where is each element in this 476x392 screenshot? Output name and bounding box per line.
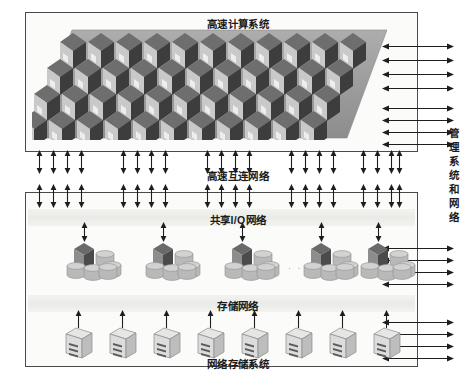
- interconnect-link: [302, 184, 309, 208]
- mgmt-link-compute-6: [382, 116, 454, 125]
- interconnect-link: [302, 150, 309, 174]
- storage-uplink: [251, 310, 258, 328]
- interconnect-link: [120, 150, 127, 174]
- interconnect-link: [360, 150, 367, 174]
- network-storage-server: [150, 326, 184, 360]
- interconnect-link: [288, 184, 295, 208]
- network-storage-server: [238, 326, 272, 360]
- interconnect-link: [246, 150, 253, 174]
- interconnect-link: [396, 184, 403, 208]
- storage-uplink: [163, 310, 170, 328]
- diagram-canvas: 高速计算系统 高速互连网络 共享I/O网络 存储网络 网络存储系统 · · · …: [0, 0, 476, 392]
- network-storage-server: [326, 326, 360, 360]
- mgmt-link-compute-5: [382, 104, 454, 113]
- mgmt-link-compute-1: [382, 42, 454, 51]
- interconnect-link: [64, 150, 71, 174]
- storage-cluster: [62, 240, 122, 286]
- interconnect-link: [204, 150, 211, 174]
- management-system-network-label: 管理系统和网络: [440, 128, 460, 226]
- interconnect-link: [78, 184, 85, 208]
- compute-cube-array: [32, 28, 387, 140]
- storage-cluster: [356, 240, 416, 286]
- network-storage-server: [62, 326, 96, 360]
- interconnect-link: [204, 184, 211, 208]
- interconnect-link: [36, 184, 43, 208]
- interconnect-link: [330, 150, 337, 174]
- interconnect-link: [50, 184, 57, 208]
- interconnect-link: [218, 150, 225, 174]
- interconnect-link: [239, 222, 246, 242]
- storage-uplink: [119, 310, 126, 328]
- interconnect-link: [162, 184, 169, 208]
- interconnect-link: [232, 184, 239, 208]
- interconnect-link: [78, 150, 85, 174]
- network-storage-server: [106, 326, 140, 360]
- interconnect-link: [81, 222, 88, 242]
- storage-cluster: [141, 240, 201, 286]
- interconnect-link: [134, 184, 141, 208]
- storage-cluster: [220, 240, 280, 286]
- interconnect-link: [288, 150, 295, 174]
- interconnect-link: [148, 184, 155, 208]
- interconnect-link: [120, 184, 127, 208]
- interconnect-link: [162, 150, 169, 174]
- interconnect-link: [374, 150, 381, 174]
- storage-cluster: [299, 240, 359, 286]
- interconnect-link: [316, 184, 323, 208]
- interconnect-link: [148, 150, 155, 174]
- storage-uplink: [295, 310, 302, 328]
- interconnect-link: [316, 150, 323, 174]
- interconnect-link: [330, 184, 337, 208]
- interconnect-link: [232, 150, 239, 174]
- interconnect-link: [160, 222, 167, 242]
- storage-uplink: [339, 310, 346, 328]
- interconnect-link: [134, 150, 141, 174]
- network-storage-server: [194, 326, 228, 360]
- interconnect-link: [388, 150, 395, 174]
- mgmt-link-compute-2: [382, 56, 454, 65]
- interconnect-link: [50, 150, 57, 174]
- storage-uplink: [75, 310, 82, 328]
- network-storage-server: [282, 326, 316, 360]
- interconnect-link: [218, 184, 225, 208]
- mgmt-link-compute-3: [382, 70, 454, 79]
- shared-io-network-label: 共享I/O网络: [210, 212, 267, 227]
- storage-uplink: [383, 310, 390, 328]
- interconnect-link: [64, 184, 71, 208]
- network-storage-server: [370, 326, 404, 360]
- interconnect-link: [318, 222, 325, 242]
- interconnect-link: [374, 184, 381, 208]
- interconnect-link: [396, 150, 403, 174]
- interconnect-link: [375, 222, 382, 242]
- mgmt-link-compute-4: [382, 84, 454, 93]
- storage-uplink: [207, 310, 214, 328]
- interconnect-link: [246, 184, 253, 208]
- interconnect-link: [388, 184, 395, 208]
- interconnect-link: [36, 150, 43, 174]
- interconnect-link: [360, 184, 367, 208]
